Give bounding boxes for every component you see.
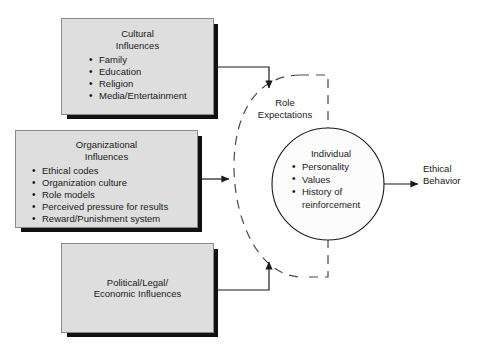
box-cultural-items: Family Education Religion Media/Entertai… xyxy=(88,54,213,102)
list-item: Personality xyxy=(292,161,381,174)
list-item: Religion xyxy=(88,78,213,90)
box-cultural-influences[interactable]: Cultural Influences Family Education Rel… xyxy=(61,18,214,115)
connector-political xyxy=(214,262,269,290)
list-item: Role models xyxy=(31,189,197,201)
individual-title: Individual xyxy=(281,148,381,160)
list-item: History of reinforcement xyxy=(292,186,381,211)
list-item: Family xyxy=(88,54,213,66)
role-expectations-label: Role Expectations xyxy=(252,97,318,121)
list-item: Organization culture xyxy=(31,177,197,189)
box-cultural-title: Cultural Influences xyxy=(62,28,213,51)
individual-content: Individual Personality Values History of… xyxy=(281,148,381,211)
list-item: Ethical codes xyxy=(31,165,197,177)
list-item: Perceived pressure for results xyxy=(31,201,197,213)
diagram-canvas: Cultural Influences Family Education Rel… xyxy=(0,0,477,357)
list-item: Reward/Punishment system xyxy=(31,213,197,225)
box-political-legal-economic-influences[interactable]: Political/Legal/ Economic Influences xyxy=(61,243,214,333)
list-item: Media/Entertainment xyxy=(88,90,213,102)
connector-cultural xyxy=(214,67,269,88)
box-organizational-influences[interactable]: Organizational Influences Ethical codes … xyxy=(15,130,198,228)
ethical-behavior-label: Ethical Behavior xyxy=(423,163,477,187)
list-item: Values xyxy=(292,174,381,187)
box-organizational-items: Ethical codes Organization culture Role … xyxy=(31,165,197,225)
individual-items: Personality Values History of reinforcem… xyxy=(292,161,381,211)
box-political-title: Political/Legal/ Economic Influences xyxy=(94,277,182,300)
list-item: Education xyxy=(88,66,213,78)
box-organizational-title: Organizational Influences xyxy=(16,139,197,162)
